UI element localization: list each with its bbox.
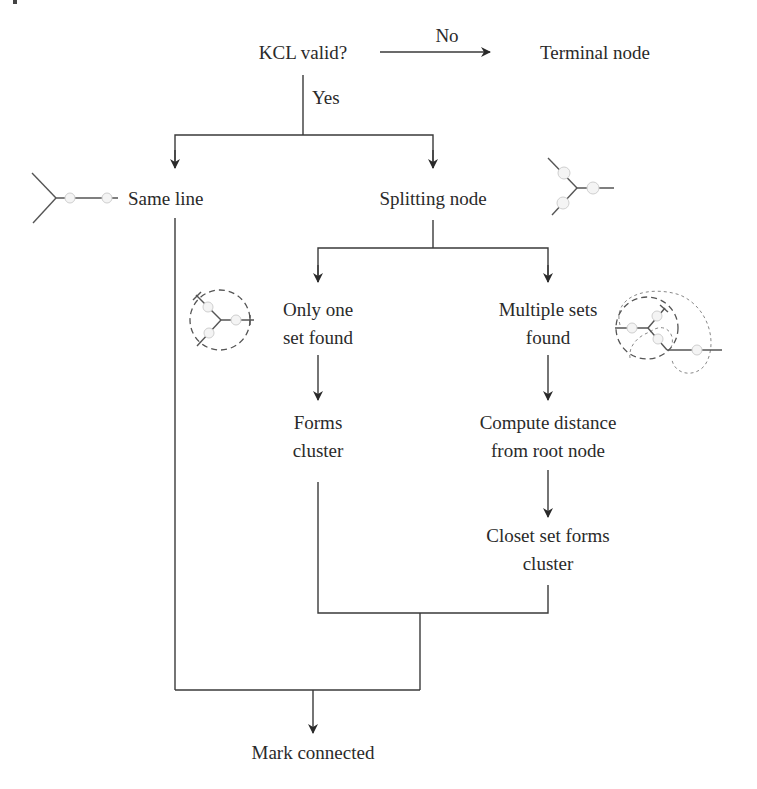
forms-cluster-label-1: Forms	[294, 412, 343, 433]
splitting-node-icon	[548, 158, 614, 215]
yes-edge-label: Yes	[312, 87, 340, 108]
same-line-label: Same line	[128, 188, 203, 209]
corner-artifact	[13, 0, 17, 4]
no-edge-label: No	[435, 25, 458, 46]
cluster-merge-connector	[318, 482, 548, 613]
splitting-node-label: Splitting node	[379, 188, 486, 209]
terminal-node-label: Terminal node	[540, 42, 650, 63]
closet-set-label-1: Closet set forms	[486, 525, 610, 546]
same-line-node-icon	[32, 173, 118, 223]
single-set-cluster-icon	[190, 290, 254, 350]
only-one-set-label-2: set found	[283, 327, 354, 348]
multiple-sets-cluster-icon	[615, 291, 722, 373]
compute-distance-label-1: Compute distance	[480, 412, 617, 433]
forms-cluster-label-2: cluster	[293, 440, 344, 461]
only-one-set-label-1: Only one	[283, 299, 353, 320]
yes-branch-connector	[175, 135, 433, 168]
mark-connected-label: Mark connected	[252, 742, 375, 763]
flowchart-canvas: KCL valid? No Terminal node Yes Same lin…	[0, 0, 757, 789]
multiple-sets-label-1: Multiple sets	[499, 299, 598, 320]
splitting-branch-connector	[318, 248, 548, 282]
kcl-valid-decision: KCL valid?	[259, 42, 347, 63]
closet-set-label-2: cluster	[523, 553, 574, 574]
multiple-sets-label-2: found	[526, 327, 571, 348]
compute-distance-label-2: from root node	[491, 440, 605, 461]
